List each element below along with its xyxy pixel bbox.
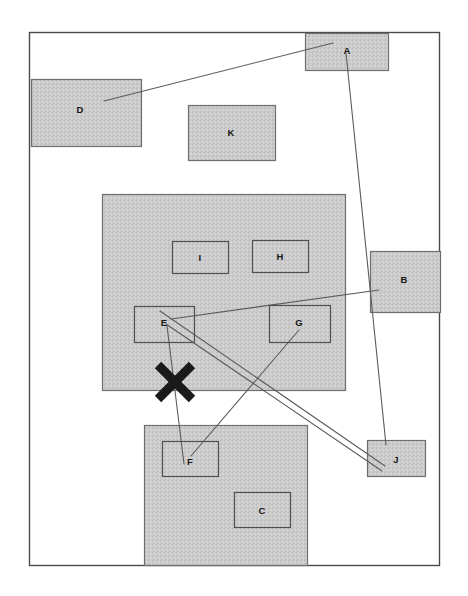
diagram-canvas: ADKBJIHEGFC xyxy=(0,0,468,596)
subzone-label-e: E xyxy=(161,317,168,328)
subzone-label-f: F xyxy=(187,456,193,467)
diagram-svg: ADKBJIHEGFC xyxy=(0,0,468,596)
subzone-label-c: C xyxy=(258,505,265,516)
zone-label-a: A xyxy=(343,45,350,56)
zone-label-b: B xyxy=(400,274,407,285)
zone-d[interactable] xyxy=(32,80,142,147)
zone-bot[interactable] xyxy=(145,426,308,566)
zone-label-k: K xyxy=(227,127,234,138)
subzone-label-i: I xyxy=(199,252,202,263)
connector-d-a[interactable] xyxy=(104,43,333,101)
zone-label-d: D xyxy=(76,104,83,115)
subzone-label-g: G xyxy=(295,317,303,328)
zone-mid[interactable] xyxy=(103,195,346,391)
zone-group xyxy=(32,34,441,566)
zone-label-j: J xyxy=(393,454,398,465)
connector-a-j[interactable] xyxy=(346,53,386,445)
subzone-label-h: H xyxy=(276,251,283,262)
